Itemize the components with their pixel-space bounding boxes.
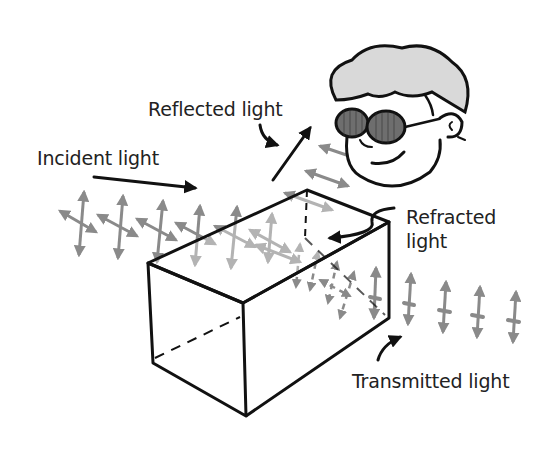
polarization-diagram: Incident light Reflected light Refracted… [0, 0, 550, 451]
refracted-light-label-line2: light [406, 229, 447, 253]
reflected-ray-arrow [273, 128, 310, 180]
glasses-arm [405, 118, 443, 127]
ear [440, 114, 462, 137]
transmitted-label-pointer [378, 337, 400, 360]
transmitted-light-label: Transmitted light [352, 369, 509, 393]
reflected-light-label: Reflected light [148, 97, 283, 121]
hair [331, 46, 468, 112]
transmitted-light-arrows [374, 268, 516, 342]
refracted-light-label-line1: Refracted [406, 205, 496, 229]
incident-pointer-arrow [94, 177, 195, 188]
reflected-label-pointer [260, 125, 277, 145]
left-lens [336, 109, 368, 137]
incident-light-label: Incident light [37, 146, 159, 170]
right-lens [367, 111, 405, 143]
viewer-face [331, 46, 468, 186]
